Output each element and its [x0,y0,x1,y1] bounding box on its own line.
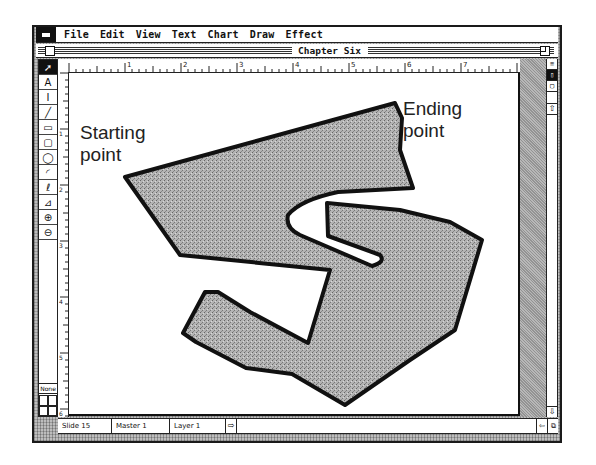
ending-point-label-line2: point [403,120,462,142]
status-bar: Slide 15 Master 1 Layer 1 ⇨ ⇦ ⧉ [58,418,558,434]
slide-indicator[interactable]: Slide 15 [58,419,112,433]
layer-indicator[interactable]: Layer 1 [170,419,226,433]
drawing-layer [0,0,596,465]
handout-view-icon[interactable]: ▢ [547,81,557,92]
starting-point-label: Starting point [80,122,145,166]
scroll-right-arrow-icon[interactable]: ⇦ [536,419,547,433]
starting-point-label-line1: Starting [80,122,145,144]
freeform-polygon-shape[interactable] [125,103,482,405]
horizontal-scrollbar[interactable] [237,419,558,433]
ending-point-label: Ending point [403,98,462,142]
scroll-left-arrow-icon[interactable]: ⇨ [226,419,237,433]
vertical-scrollbar[interactable]: ≡ ▯ ▢ ⇧ ⇩ [546,59,558,417]
master-indicator[interactable]: Master 1 [112,419,170,433]
size-box-icon[interactable]: ⧉ [547,419,558,433]
ending-point-label-line1: Ending [403,98,462,120]
scroll-corner: ⇦ ⧉ [536,419,558,433]
slide-view-icon[interactable]: ≡ [547,59,557,70]
scroll-up-arrow-icon[interactable]: ⇧ [547,103,557,115]
scroll-down-arrow-icon[interactable]: ⇩ [547,406,557,417]
starting-point-label-line2: point [80,144,145,166]
notes-view-icon[interactable]: ▯ [547,70,557,81]
